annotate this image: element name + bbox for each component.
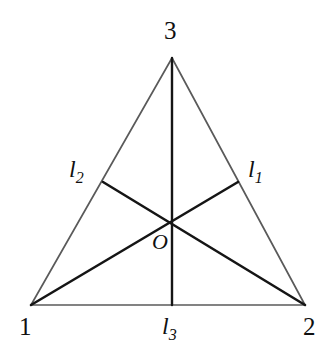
vertex-label-1: 1 — [19, 314, 32, 339]
line-label-l3-subscript: 3 — [169, 326, 177, 343]
triangle-edge-1-3 — [31, 58, 172, 305]
line-label-l1-base: l — [248, 156, 255, 182]
vertex-label-2: 2 — [303, 314, 316, 339]
vertex-label-3: 3 — [164, 18, 177, 43]
center-point-label-o: O — [152, 231, 168, 253]
line-label-l1: l1 — [248, 157, 263, 181]
line-label-l3: l3 — [162, 314, 177, 338]
triangle-diagram-svg — [0, 0, 335, 363]
line-label-l2-base: l — [69, 156, 76, 182]
line-label-l2: l2 — [69, 157, 84, 181]
geometry-figure: 3 1 2 l2 l1 l3 O — [0, 0, 335, 363]
line-label-l3-base: l — [162, 313, 169, 339]
line-label-l2-subscript: 2 — [76, 169, 84, 186]
line-label-l1-subscript: 1 — [255, 169, 263, 186]
